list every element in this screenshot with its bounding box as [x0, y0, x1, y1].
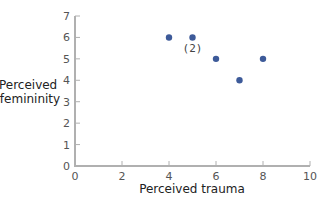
y-tick-label: 1 [63, 139, 70, 152]
y-axis-title: Perceived femininity [0, 78, 61, 106]
x-axis-title: Perceived trauma [139, 182, 245, 196]
data-point [236, 77, 242, 83]
x-tick-label: 0 [72, 170, 79, 183]
y-tick-label: 4 [63, 74, 70, 87]
point-count-label: (2) [183, 42, 203, 55]
x-tick-label: 2 [119, 170, 126, 183]
data-points: (2) [166, 34, 266, 83]
y-tick-label: 3 [63, 96, 70, 109]
data-point [189, 34, 195, 40]
scatter-chart: 024681001234567 (2) Perceived trauma Per… [0, 0, 324, 206]
y-tick-label: 5 [63, 53, 70, 66]
data-point [166, 34, 172, 40]
y-tick-label: 0 [63, 160, 70, 173]
y-tick-label: 2 [63, 117, 70, 130]
x-tick-label: 8 [260, 170, 267, 183]
data-point [213, 56, 219, 62]
x-tick-label: 10 [303, 170, 317, 183]
data-point [260, 56, 266, 62]
y-tick-label: 7 [63, 10, 70, 23]
y-tick-label: 6 [63, 31, 70, 44]
